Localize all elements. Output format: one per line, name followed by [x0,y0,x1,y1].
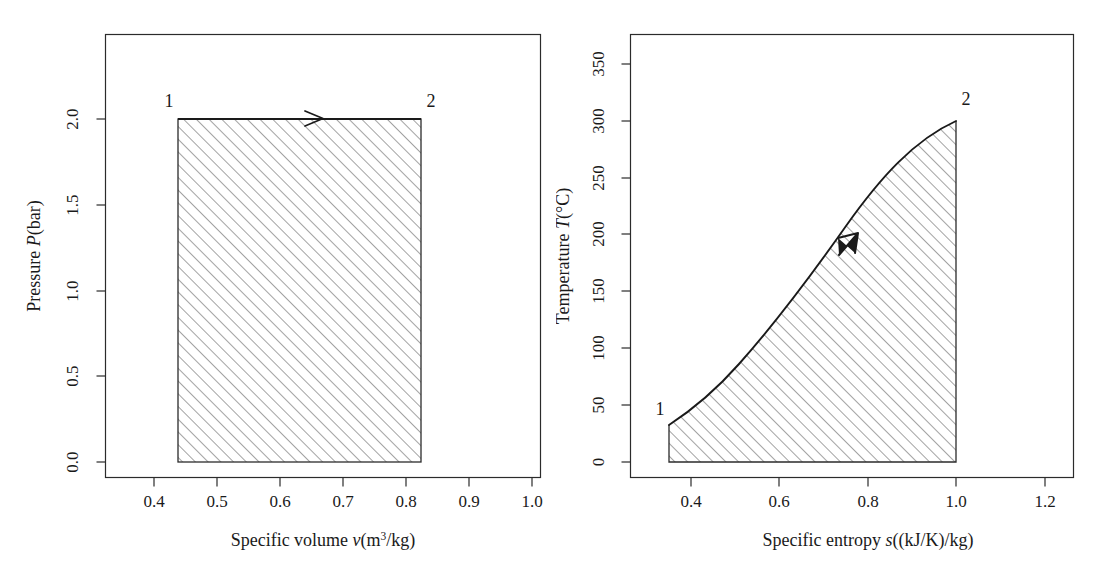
x-tick-label: 0.9 [458,492,479,511]
y-axis-title: Pressure P(bar) [24,200,45,311]
y-tick-label: 150 [589,278,608,304]
x-tick-label: 0.7 [332,492,354,511]
temperature-entropy-plot: 0.4 0.6 0.8 1.0 1.2 0 50 100 [556,0,1098,576]
x-tick-label: 1.0 [945,492,966,511]
x-axis-title: Specific entropy s((kJ/K)/kg) [763,530,974,551]
x-tick-label: 1.0 [521,492,542,511]
y-tick-label: 300 [589,108,608,134]
y-tick-label: 0.5 [63,365,82,386]
state-label-1: 1 [165,91,174,111]
x-tick-label: 1.2 [1034,492,1055,511]
state-label-1: 1 [656,399,665,419]
y-axis-tick-labels: 0.0 0.5 1.0 1.5 2.0 [63,108,82,472]
x-tick-label: 0.6 [768,492,789,511]
state-label-2: 2 [962,89,971,109]
y-tick-label: 0 [589,458,608,467]
y-axis-title: Temperature T(°C) [556,188,574,324]
x-tick-label: 0.8 [395,492,416,511]
y-tick-label: 50 [589,397,608,414]
y-axis-ticks [97,119,106,462]
x-tick-label: 0.8 [857,492,878,511]
y-tick-label: 100 [589,335,608,361]
x-axis-tick-labels: 0.4 0.6 0.8 1.0 1.2 [680,492,1055,511]
thermodynamic-process-figure: 0.4 0.5 0.6 0.7 0.8 0.9 1.0 0.0 0.5 1.0 [0,0,1098,576]
process-area-fill [178,119,421,462]
y-tick-label: 1.0 [63,280,82,301]
x-tick-label: 0.6 [269,492,290,511]
x-tick-label: 0.4 [680,492,702,511]
temperature-entropy-panel: 0.4 0.6 0.8 1.0 1.2 0 50 100 [556,0,1098,576]
y-axis-tick-labels: 0 50 100 150 200 250 300 350 [589,51,608,466]
y-tick-label: 200 [589,221,608,247]
x-axis-title: Specific volume v(m3/kg) [231,530,416,551]
x-axis-ticks [691,478,1045,487]
state-label-2: 2 [427,91,436,111]
x-axis-ticks [154,478,532,487]
y-axis-ticks [622,64,631,462]
pressure-volume-plot: 0.4 0.5 0.6 0.7 0.8 0.9 1.0 0.0 0.5 1.0 [0,0,556,576]
process-area-fill [656,110,976,470]
y-tick-label: 2.0 [63,108,82,129]
x-axis-tick-labels: 0.4 0.5 0.6 0.7 0.8 0.9 1.0 [143,492,542,511]
y-tick-label: 250 [589,165,608,191]
y-tick-label: 1.5 [63,194,82,215]
y-tick-label: 0.0 [63,451,82,472]
y-tick-label: 350 [589,51,608,77]
x-tick-label: 0.5 [206,492,227,511]
pressure-volume-panel: 0.4 0.5 0.6 0.7 0.8 0.9 1.0 0.0 0.5 1.0 [0,0,556,576]
x-tick-label: 0.4 [143,492,165,511]
